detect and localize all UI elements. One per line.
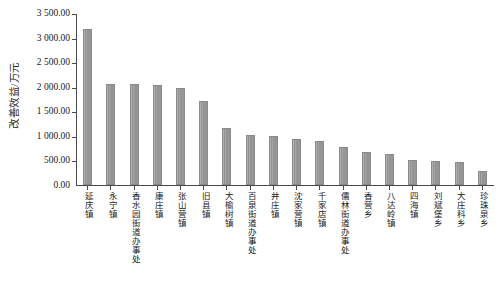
x-axis-category-label: 四海镇 — [408, 192, 418, 219]
x-axis-tick-slot — [401, 186, 424, 190]
x-axis-tick-mark — [134, 186, 135, 190]
x-axis-category-label: 珍珠泉乡 — [478, 192, 488, 228]
bar-slot — [192, 14, 215, 185]
y-axis-tick-label: 2 500.00 — [37, 58, 70, 68]
x-axis-label-slot: 儒林街道办事处 — [331, 192, 354, 296]
x-axis-tick-mark — [87, 186, 88, 190]
bar-slot — [355, 14, 378, 185]
y-axis-tick-mark — [72, 112, 76, 113]
x-axis-label-slot: 刘斌堡乡 — [424, 192, 447, 296]
bar-slot — [99, 14, 122, 185]
y-axis-tick-label: 3 500.00 — [37, 9, 70, 19]
bar[interactable] — [362, 152, 371, 185]
bar[interactable] — [83, 29, 92, 185]
bar-slot — [262, 14, 285, 185]
x-axis-category-label: 香营乡 — [361, 192, 371, 219]
y-axis-tick-label: 2 000.00 — [37, 83, 70, 93]
x-axis-tick-mark — [273, 186, 274, 190]
y-axis-tick-mark — [72, 161, 76, 162]
x-axis-label-slot: 珍珠泉乡 — [471, 192, 494, 296]
bar[interactable] — [478, 171, 487, 185]
x-axis-tick-slot — [285, 186, 308, 190]
x-axis-tick-marks — [76, 186, 494, 190]
bar[interactable] — [408, 160, 417, 185]
x-axis-tick-mark — [389, 186, 390, 190]
bar[interactable] — [246, 135, 255, 185]
x-axis-category-label: 永宁镇 — [106, 192, 116, 219]
bar-slot — [169, 14, 192, 185]
bar-slot — [215, 14, 238, 185]
x-axis-category-label: 旧县镇 — [199, 192, 209, 219]
y-axis-tick-label: 0.00 — [53, 181, 70, 191]
x-axis-tick-slot — [76, 186, 99, 190]
plot-area — [76, 14, 494, 186]
y-axis-tick-label: 1 500.00 — [37, 108, 70, 118]
x-axis-tick-slot — [146, 186, 169, 190]
x-axis-tick-slot — [262, 186, 285, 190]
x-axis-tick-slot — [215, 186, 238, 190]
x-axis-category-label: 儒林街道办事处 — [338, 192, 348, 255]
x-axis-label-slot: 大榆树镇 — [215, 192, 238, 296]
bar[interactable] — [176, 88, 185, 185]
x-axis-label-slot: 井庄镇 — [262, 192, 285, 296]
x-axis-label-slot: 八达岭镇 — [378, 192, 401, 296]
x-axis-tick-slot — [308, 186, 331, 190]
x-axis-tick-mark — [157, 186, 158, 190]
bar[interactable] — [153, 85, 162, 185]
x-axis-label-slot: 四海镇 — [401, 192, 424, 296]
bar[interactable] — [130, 84, 139, 185]
y-axis-tick-mark — [72, 88, 76, 89]
bar[interactable] — [292, 139, 301, 185]
bar[interactable] — [455, 162, 464, 185]
x-axis-label-slot: 延庆镇 — [76, 192, 99, 296]
x-axis-category-label: 百泉街道办事处 — [245, 192, 255, 255]
x-axis-category-label: 刘斌堡乡 — [431, 192, 441, 228]
y-axis-tick-mark — [72, 39, 76, 40]
bar-slot — [308, 14, 331, 185]
bar-slot — [331, 14, 354, 185]
x-axis-tick-mark — [250, 186, 251, 190]
x-axis-tick-slot — [355, 186, 378, 190]
x-axis-label-slot: 大庄科乡 — [448, 192, 471, 296]
y-axis-tick-mark — [72, 14, 76, 15]
x-axis-tick-slot — [169, 186, 192, 190]
x-axis-category-labels: 延庆镇永宁镇香水园街道办事处康庄镇张山营镇旧县镇大榆树镇百泉街道办事处井庄镇沈家… — [76, 192, 494, 296]
x-axis-tick-mark — [459, 186, 460, 190]
bar-slot — [401, 14, 424, 185]
bar-slot — [122, 14, 145, 185]
x-axis-label-slot: 沈家营镇 — [285, 192, 308, 296]
x-axis-tick-mark — [366, 186, 367, 190]
x-axis-tick-mark — [412, 186, 413, 190]
x-axis-label-slot: 香营乡 — [355, 192, 378, 296]
x-axis-tick-slot — [424, 186, 447, 190]
x-axis-category-label: 沈家营镇 — [292, 192, 302, 228]
x-axis-tick-mark — [203, 186, 204, 190]
bar[interactable] — [222, 128, 231, 185]
bar-chart: 改善效益/万元 3 500.003 000.002 500.002 000.00… — [0, 0, 501, 300]
bar[interactable] — [315, 141, 324, 185]
x-axis-tick-slot — [99, 186, 122, 190]
x-axis-category-label: 井庄镇 — [269, 192, 279, 219]
bar-series — [76, 14, 494, 185]
x-axis-tick-mark — [482, 186, 483, 190]
bar[interactable] — [385, 154, 394, 185]
bar-slot — [378, 14, 401, 185]
bar-slot — [448, 14, 471, 185]
bar[interactable] — [431, 161, 440, 185]
y-axis-title-text: 改善效益/万元 — [6, 62, 21, 128]
x-axis-tick-slot — [378, 186, 401, 190]
x-axis-tick-mark — [435, 186, 436, 190]
x-axis-tick-slot — [331, 186, 354, 190]
bar[interactable] — [106, 84, 115, 185]
bar-slot — [239, 14, 262, 185]
x-axis-category-label: 千家店镇 — [315, 192, 325, 228]
x-axis-category-label: 八达岭镇 — [385, 192, 395, 228]
x-axis-label-slot: 永宁镇 — [99, 192, 122, 296]
bar-slot — [285, 14, 308, 185]
bar[interactable] — [339, 147, 348, 185]
bar[interactable] — [269, 136, 278, 185]
y-axis-tick-label: 1 000.00 — [37, 132, 70, 142]
bar[interactable] — [199, 101, 208, 185]
x-axis-tick-slot — [239, 186, 262, 190]
x-axis-tick-slot — [192, 186, 215, 190]
